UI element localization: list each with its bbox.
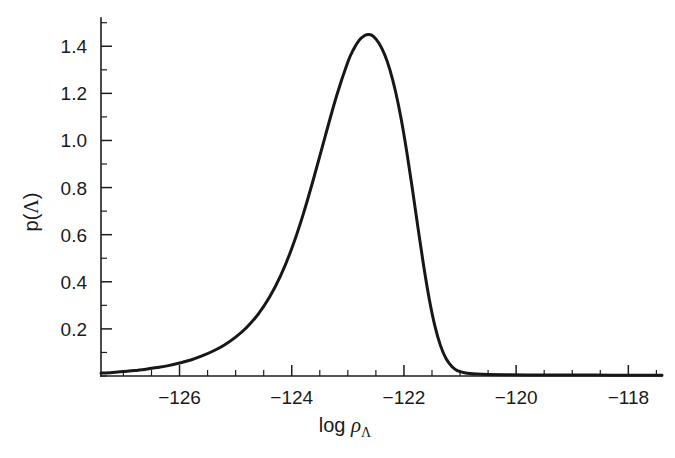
y-tick-label: 0.4 bbox=[61, 272, 88, 293]
x-tick-label: −122 bbox=[383, 387, 426, 408]
y-tick-label: 1.4 bbox=[61, 36, 88, 57]
y-tick-label: 0.8 bbox=[61, 178, 87, 199]
y-axis-title: p(Λ) bbox=[20, 193, 42, 232]
y-axis-title-group: p(Λ) bbox=[20, 193, 42, 232]
x-tick-label: −120 bbox=[495, 387, 538, 408]
y-tick-label: 0.6 bbox=[61, 225, 87, 246]
y-tick-label: 1.0 bbox=[61, 130, 87, 151]
y-tick-label: 0.2 bbox=[61, 319, 87, 340]
probability-density-plot: −126−124−122−120−118 1.41.21.00.80.60.40… bbox=[0, 0, 675, 458]
figure-container: −126−124−122−120−118 1.41.21.00.80.60.40… bbox=[0, 0, 675, 458]
x-tick-label: −126 bbox=[158, 387, 201, 408]
y-tick-label: 1.2 bbox=[61, 83, 87, 104]
x-tick-label: −118 bbox=[608, 387, 649, 408]
x-tick-label: −124 bbox=[270, 387, 313, 408]
